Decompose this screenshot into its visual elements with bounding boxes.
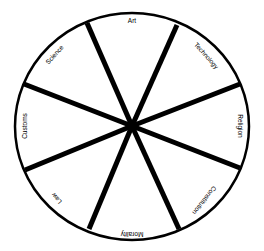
label-customs: Customs <box>21 112 28 138</box>
label-art: Art <box>128 17 137 24</box>
wheel-diagram: Art Technology Religion Constitution Mor… <box>0 0 264 251</box>
label-morality: Morality <box>120 230 144 238</box>
hub <box>128 122 136 130</box>
label-religion: Religion <box>236 114 244 138</box>
